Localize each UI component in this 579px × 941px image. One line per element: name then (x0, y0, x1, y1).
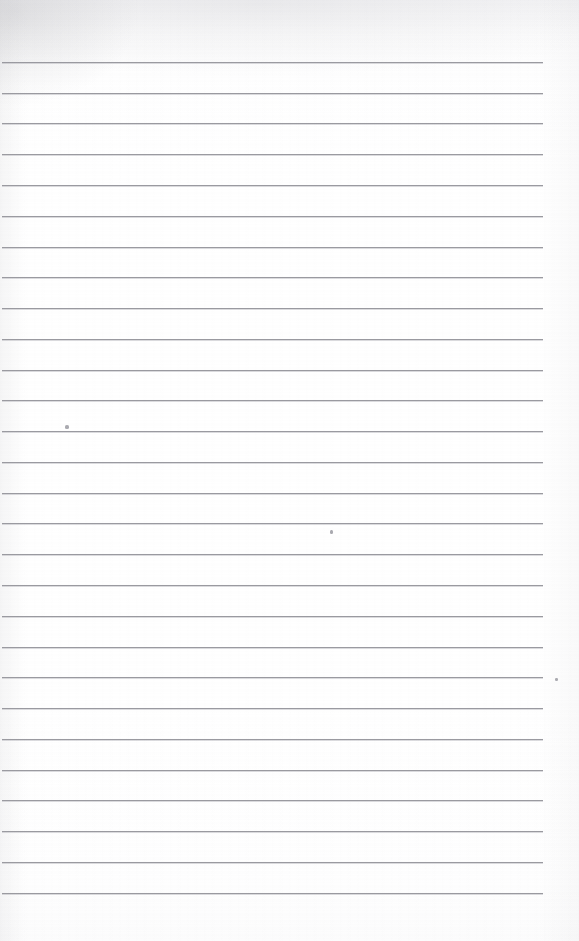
ruled-line (2, 308, 543, 309)
ruled-line (2, 523, 543, 524)
ruled-line (2, 493, 543, 494)
ruled-line (2, 647, 543, 648)
ruled-line (2, 370, 543, 371)
ruled-line (2, 400, 543, 401)
ruled-line (2, 216, 543, 217)
ruled-line (2, 462, 543, 463)
ruled-line (2, 185, 543, 186)
ruled-line (2, 123, 543, 124)
ruled-line (2, 831, 543, 832)
ruled-line (2, 770, 543, 771)
ruled-line (2, 585, 543, 586)
ruled-line (2, 554, 543, 555)
ruled-line (2, 431, 543, 432)
ruled-line (2, 62, 543, 63)
ruled-line (2, 677, 543, 678)
speck-middle (330, 530, 333, 534)
ruled-line (2, 800, 543, 801)
speck-upper-left (65, 425, 69, 429)
ruled-line (2, 277, 543, 278)
speck-right-edge (555, 678, 558, 681)
ruled-line (2, 616, 543, 617)
ruled-lines-layer (0, 0, 579, 941)
ruled-line (2, 154, 543, 155)
ruled-line (2, 739, 543, 740)
ruled-line (2, 339, 543, 340)
ruled-line (2, 247, 543, 248)
ruled-line (2, 893, 543, 894)
ruled-line (2, 862, 543, 863)
ruled-line (2, 708, 543, 709)
ruled-line (2, 93, 543, 94)
scanned-page (0, 0, 579, 941)
